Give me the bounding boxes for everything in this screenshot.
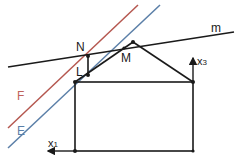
label-x1-axis: x1 (48, 137, 58, 151)
point-house-bottom-right (191, 149, 194, 152)
label-plane-f: F (17, 90, 24, 102)
point-m (122, 46, 125, 49)
point-l (86, 73, 90, 77)
plane-f-line (8, 5, 138, 128)
x3-subscript: 3 (203, 58, 207, 67)
label-m-point: M (121, 52, 131, 64)
label-x3-axis: x3 (197, 55, 207, 69)
house-body (75, 82, 193, 151)
label-line-m: m (211, 22, 221, 34)
point-house-bottom-left (73, 149, 77, 153)
roof-right-edge (133, 42, 193, 82)
point-n (86, 54, 90, 58)
point-house-top-left (73, 80, 77, 84)
label-l: L (76, 66, 83, 78)
x1-subscript: 1 (54, 140, 58, 149)
point-apex (131, 40, 135, 44)
label-plane-e: E (17, 125, 25, 137)
geometry-diagram (0, 0, 240, 162)
point-house-top-right (191, 80, 195, 84)
label-n: N (76, 41, 85, 53)
